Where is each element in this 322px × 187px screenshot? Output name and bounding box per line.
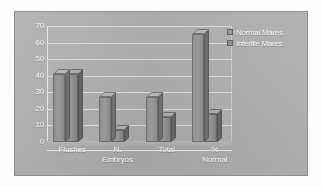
bar (192, 34, 204, 142)
legend-item-infertile-mares[interactable]: Infertile Mares (227, 38, 307, 48)
y-axis-tick-label: 10 (20, 121, 44, 129)
bar (99, 97, 111, 142)
y-axis: 706050403020100 (18, 26, 44, 142)
legend-item-normal-mares[interactable]: Normal Mares (227, 27, 307, 37)
bar (146, 97, 158, 142)
y-axis-tick-label: 50 (20, 55, 44, 63)
y-axis-tick-label: 70 (20, 22, 44, 30)
bar-side-face (204, 30, 209, 142)
y-axis-tick-label: 60 (20, 39, 44, 47)
x-axis-category-label: % Normal (192, 145, 238, 164)
y-axis-tick-label: 30 (20, 88, 44, 96)
bar-group (99, 26, 145, 142)
legend-swatch-icon (227, 40, 233, 46)
y-axis-tick-label: 40 (20, 72, 44, 80)
x-axis: FlushesN. EmbryosTotal% Normal (47, 145, 242, 175)
bar-side-face (78, 70, 83, 142)
x-axis-category-label: N. Embryos (94, 145, 140, 164)
chart-legend: Normal Mares Infertile Mares (227, 27, 307, 49)
bar-side-face (158, 93, 163, 142)
bar-group (53, 26, 99, 142)
y-axis-tick-label: 20 (20, 105, 44, 113)
y-axis-tick-label: 0 (20, 138, 44, 146)
legend-item-label: Infertile Mares (236, 39, 282, 48)
chart-figure: 706050403020100 FlushesN. EmbryosTotal% … (0, 0, 322, 187)
bar-side-face (171, 113, 176, 142)
bar-side-face (111, 93, 116, 142)
bar-front-face (146, 97, 158, 142)
x-axis-category-label: Flushes (49, 145, 95, 155)
plot-area (47, 26, 232, 142)
bar-side-face (217, 109, 222, 142)
bar-front-face (53, 74, 65, 142)
bar-group (146, 26, 192, 142)
legend-swatch-icon (227, 29, 233, 35)
bar-front-face (192, 34, 204, 142)
x-axis-category-label: Total (144, 145, 190, 155)
bar-front-face (99, 97, 111, 142)
chart-panel: 706050403020100 FlushesN. EmbryosTotal% … (14, 11, 308, 176)
legend-item-label: Normal Mares (236, 28, 283, 37)
bar (53, 74, 65, 142)
bar-side-face (65, 70, 70, 142)
